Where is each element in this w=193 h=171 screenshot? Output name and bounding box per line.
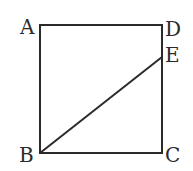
segment-be bbox=[40, 57, 162, 153]
label-b: B bbox=[19, 143, 34, 167]
label-c: C bbox=[165, 143, 180, 167]
square-abcd bbox=[40, 25, 162, 153]
label-e: E bbox=[165, 43, 180, 67]
label-a: A bbox=[19, 15, 35, 39]
geometry-diagram: A D E B C bbox=[0, 0, 193, 171]
label-d: D bbox=[165, 17, 181, 41]
